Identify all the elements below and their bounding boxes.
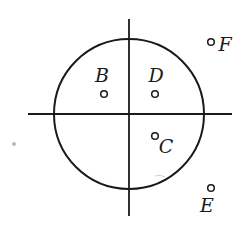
point-f: F <box>208 33 233 55</box>
point-b: B <box>94 64 109 97</box>
circle-diagram: B D C F E <box>0 0 249 242</box>
point-f-label: F <box>217 33 232 55</box>
point-e: E <box>199 185 214 216</box>
point-d-label: D <box>147 64 163 86</box>
point-c: C <box>152 133 174 157</box>
scan-speck <box>12 142 16 146</box>
point-d-marker <box>152 91 159 98</box>
point-b-marker <box>101 91 108 98</box>
point-e-marker <box>208 185 215 192</box>
point-f-marker <box>208 39 215 46</box>
point-d: D <box>147 64 163 97</box>
point-e-label: E <box>199 194 214 216</box>
point-c-label: C <box>159 135 174 157</box>
scan-mark <box>155 175 165 177</box>
point-b-label: B <box>94 64 109 86</box>
point-c-marker <box>152 133 159 140</box>
